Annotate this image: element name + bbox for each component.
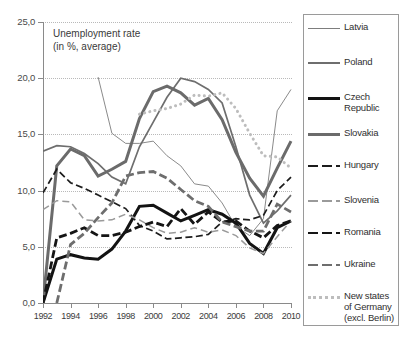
legend-item-hungary[interactable]: Hungary <box>308 159 398 172</box>
legend-swatch-icon <box>308 128 340 140</box>
legend-item-new-states[interactable]: New states of Germany (excl. Berlin) <box>308 290 398 323</box>
legend-swatch-icon <box>308 160 340 172</box>
series-line <box>43 78 291 223</box>
legend-item-czech[interactable]: Czech Republic <box>308 91 398 113</box>
chart-root: 0,05,010,015,020,025,0 19921994199619982… <box>0 0 404 348</box>
legend-item-latvia[interactable]: Latvia <box>308 21 398 34</box>
legend-label: Hungary <box>344 159 379 170</box>
legend-label: Latvia <box>344 21 368 32</box>
legend-item-slovakia[interactable]: Slovakia <box>308 127 398 140</box>
legend-swatch-icon <box>308 22 340 34</box>
legend-swatch-icon <box>308 195 340 207</box>
legend-swatch-icon <box>308 227 340 239</box>
chart-legend: LatviaPolandCzech RepublicSlovakiaHungar… <box>303 14 399 326</box>
series-line <box>43 86 291 303</box>
legend-label: Slovakia <box>344 127 378 138</box>
series-line <box>139 93 291 168</box>
legend-item-slovenia[interactable]: Slovenia <box>308 194 398 207</box>
legend-label: Czech Republic <box>344 91 379 113</box>
legend-label: Slovenia <box>344 194 379 205</box>
legend-item-poland[interactable]: Poland <box>308 56 398 69</box>
legend-label: Poland <box>344 56 372 67</box>
legend-swatch-icon <box>308 291 340 303</box>
legend-label: New states of Germany (excl. Berlin) <box>344 290 394 323</box>
legend-item-romania[interactable]: Romania <box>308 226 398 239</box>
legend-label: Romania <box>344 226 381 237</box>
legend-label: Ukraine <box>344 258 375 269</box>
legend-swatch-icon <box>308 259 340 271</box>
legend-swatch-icon <box>308 57 340 69</box>
legend-item-ukraine[interactable]: Ukraine <box>308 258 398 271</box>
series-line <box>43 205 291 303</box>
legend-swatch-icon <box>308 92 340 104</box>
